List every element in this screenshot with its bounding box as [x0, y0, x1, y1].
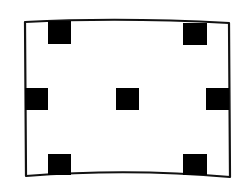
square-bottom-right — [183, 154, 207, 175]
square-top-right — [183, 23, 207, 45]
square-middle-right — [206, 88, 229, 110]
square-middle-left — [25, 88, 48, 110]
squares-group — [25, 21, 229, 175]
square-bottom-left — [48, 154, 71, 175]
diagram-canvas — [0, 0, 241, 184]
square-top-left — [48, 21, 71, 44]
square-center — [116, 88, 139, 110]
